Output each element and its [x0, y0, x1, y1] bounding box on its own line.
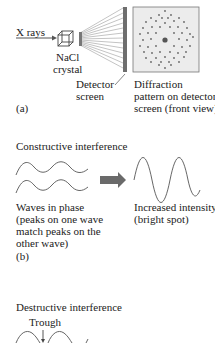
xray-label: X rays [16, 26, 45, 38]
diffraction-pattern [133, 7, 199, 72]
pattern-label-line1: Diffraction [134, 78, 183, 90]
detector-label-line1: Detector [76, 78, 114, 90]
in-phase-waves [16, 162, 88, 193]
result-arrow [100, 172, 126, 188]
panel-b-tag: (b) [16, 250, 29, 262]
panel-a-tag: (a) [16, 102, 28, 114]
constructive-title: Constructive interference [16, 140, 127, 152]
crystal-label-line1: NaCl [56, 51, 79, 63]
trough-label: Trough [29, 316, 61, 328]
trough-pointer [41, 330, 45, 343]
detector-label-line2: screen [76, 90, 104, 102]
crystal-label-line2: crystal [53, 63, 82, 75]
intensity-caption-line1: Increased intensity [134, 201, 215, 213]
pattern-label-line2: pattern on detector [134, 90, 215, 102]
crystal-cube-icon [58, 31, 73, 46]
detector-screen [123, 7, 127, 72]
diagram-graphics [0, 0, 215, 343]
intensity-caption-line2: (bright spot) [134, 213, 189, 225]
destructive-title: Destructive interference [16, 301, 122, 313]
in-phase-caption-line4: other wave) [16, 237, 68, 249]
in-phase-caption-line2: (peaks on one wave [16, 213, 103, 225]
diffracted-beams [80, 8, 123, 68]
increased-intensity-wave [134, 158, 200, 203]
in-phase-caption-line1: Waves in phase [16, 201, 84, 213]
in-phase-caption-line3: match peaks on the [16, 225, 101, 237]
destructive-waves [16, 331, 88, 343]
detector-leader-line [115, 74, 125, 85]
pattern-label-line3: screen (front view) [134, 102, 215, 114]
